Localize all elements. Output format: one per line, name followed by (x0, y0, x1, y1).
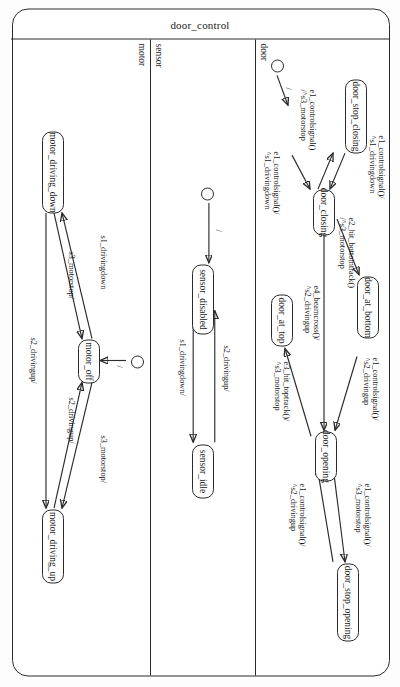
transition-label-closing-to-opening: e4_beamcross()/ ^s2_drivingup (303, 285, 321, 340)
initial-pseudostate-door (271, 59, 284, 72)
state-sensor-idle[interactable]: sensor_idle (192, 444, 214, 498)
transition-label-stopclosing-to-closing: e1_controlsignal()/ ^s1_drivingdown (368, 135, 386, 198)
transition-label-opening-to-stopopening: e1_controlsignal()/ ^s3_motorstop (354, 483, 372, 546)
sensor-region-wires (151, 39, 255, 675)
concurrent-regions: door (13, 39, 389, 675)
transition-label-motor-off-to-up: s2_drivingup/ (67, 397, 76, 443)
label-line-1: e1_controlsignal()/ (377, 135, 386, 198)
initial-pseudostate-motor (131, 355, 144, 368)
label-line-2: ^s1_drivingdown (368, 135, 377, 198)
region-door: door (256, 39, 389, 675)
statechart-diagram: door_control door (0, 0, 400, 687)
transition-label-motor-off-to-down: s1_drivingdown (99, 235, 108, 289)
composite-state-door-control: door_control door (12, 8, 390, 676)
label-line-2: ^s3_motorstop (273, 361, 282, 421)
state-label: motor_off (84, 342, 94, 380)
state-door-stop-opening[interactable]: door_stop_opening (337, 563, 359, 641)
state-door-opening[interactable]: door_opening (315, 431, 337, 481)
label-line-2: ^s2_drivingup (303, 285, 312, 340)
rotated-diagram-wrapper: door_control door (0, 0, 400, 687)
transition-label-atbottom-to-opening: e1_controlsignal()/ ^s2_drivingup (362, 357, 380, 420)
transition-label-sensor-disabled-to-idle: s1_drivingdown/ (178, 339, 187, 395)
label-line-1: e1_controlsignal()/ (272, 151, 281, 214)
composite-state-label: door_control (170, 18, 229, 30)
state-label: door_at_top (277, 297, 287, 343)
composite-state-name-compartment: door_control (11, 9, 389, 39)
label-line-1: e3_hit_toptrack()/ (282, 361, 291, 421)
label-line-2: ^s3_motorstop (354, 483, 363, 546)
transition-label-stopopening-to-opening: e1_controlsignal()/ ^s2_drivingup (289, 483, 307, 546)
state-label: sensor_idle (198, 449, 208, 492)
transition-label-doortop-to-closing: e1_controlsignal()/ ^s1_drivingdown (263, 151, 281, 214)
state-motor-driving-down[interactable]: motor_driving_down (42, 131, 64, 213)
transition-label-sensor-idle-to-disabled: s2_drivingup/ (222, 345, 231, 391)
state-door-at-top[interactable]: door_at_top (271, 294, 293, 346)
diagram-canvas: door_control door (0, 0, 400, 687)
transition-label-closing-to-stopclosing: e1_controlsignal() /^s3_motorstop (299, 89, 317, 150)
region-motor: motor (11, 39, 150, 675)
state-label: door_stop_closing (351, 81, 361, 151)
state-motor-driving-up[interactable]: motor_driving_up (42, 509, 64, 583)
transition-label-door-initial: / (284, 87, 293, 89)
transition-label-sensor-initial: / (214, 229, 223, 231)
state-sensor-disabled[interactable]: sensor_disabled (192, 264, 214, 334)
label-line-1: e1_controlsignal()/ (298, 483, 307, 546)
label-line-2: ^s2_drivingup (362, 357, 371, 420)
state-label: door_at_bottom (363, 277, 373, 338)
transition-label-motor-up-to-off: s3_motorstop/ (99, 435, 108, 482)
initial-pseudostate-sensor (201, 187, 214, 200)
label-line-1: e4_beamcross()/ (312, 285, 321, 340)
region-sensor: sensor / sensor_disabled sensor_i (150, 39, 256, 675)
state-label: motor_driving_down (48, 132, 58, 213)
label-line-1: e1_controlsignal()/ (371, 357, 380, 420)
state-door-closing[interactable]: door_closing (313, 189, 335, 235)
state-label: door_opening (321, 430, 331, 483)
label-line-2: /^s3_motorstop (338, 217, 347, 288)
transition-label-opening-to-attop: e3_hit_toptrack()/ ^s3_motorstop (273, 361, 291, 421)
state-label: motor_driving_up (48, 511, 58, 580)
label-line-2: /^s3_motorstop (299, 89, 308, 150)
transition-label-motor-down-to-up: s2_drivingup/ (29, 337, 38, 383)
transition-label-closing-to-atbottom: e2_hit_bottomtrack() /^s3_motorstop (338, 217, 356, 288)
transition-label-motor-down-to-off: s3_motorstop/ (67, 251, 76, 298)
label-line-1: e1_controlsignal() (308, 89, 317, 150)
label-line-2: ^s2_drivingup (289, 483, 298, 546)
state-label: door_stop_opening (343, 565, 353, 638)
state-motor-off[interactable]: motor_off (78, 339, 100, 383)
state-label: sensor_disabled (198, 269, 208, 330)
label-line-2: ^s1_drivingdown (263, 151, 272, 214)
transition-label-motor-initial: / (115, 365, 124, 367)
state-door-at-bottom[interactable]: door_at_bottom (357, 276, 379, 338)
label-line-1: e1_controlsignal()/ (363, 483, 372, 546)
state-door-stop-closing[interactable]: door_stop_closing (345, 79, 367, 153)
state-label: door_closing (319, 187, 329, 237)
label-line-1: e2_hit_bottomtrack() (347, 217, 356, 288)
